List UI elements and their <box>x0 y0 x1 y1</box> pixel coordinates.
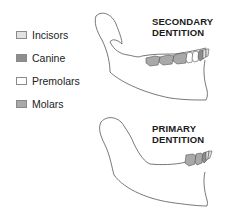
primary-teeth <box>185 151 212 166</box>
molar-1 <box>146 56 160 66</box>
primary-molar-2 <box>195 153 203 165</box>
primary-incisor-2 <box>208 151 212 159</box>
secondary-teeth <box>146 49 209 66</box>
title-line: PRIMARY <box>152 123 204 134</box>
title-line: DENTITION <box>152 134 204 145</box>
title-line: SECONDARY <box>152 16 213 27</box>
primary-dentition-title: PRIMARY DENTITION <box>152 123 204 145</box>
incisor-1 <box>203 49 206 59</box>
molar-3 <box>173 53 187 64</box>
title-line: DENTITION <box>152 27 213 38</box>
primary-molar-1 <box>185 154 196 166</box>
incisor-2 <box>206 49 209 57</box>
molar-2 <box>159 55 174 65</box>
secondary-dentition-title: SECONDARY DENTITION <box>152 16 213 38</box>
